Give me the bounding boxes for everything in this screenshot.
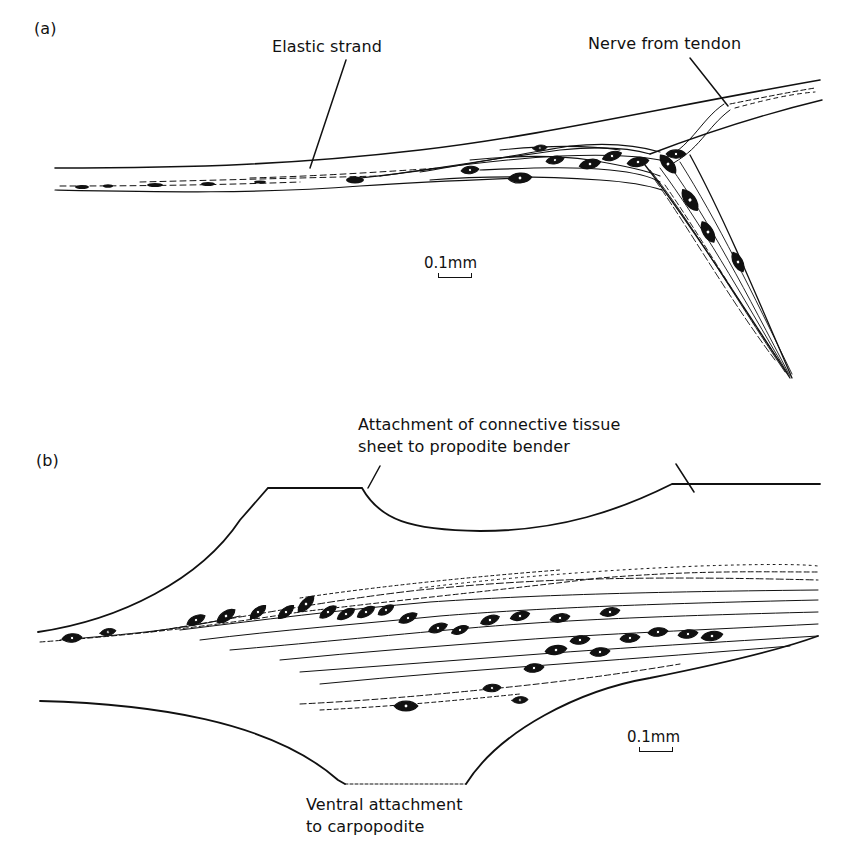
- ventral-attachment-label-line1: Ventral attachment: [306, 795, 463, 814]
- elastic-strand-label: Elastic strand: [272, 37, 382, 56]
- scale-bar-b-line: [639, 747, 673, 752]
- panel-a-label: (a): [34, 19, 57, 38]
- attachment-label-line2: sheet to propodite bender: [358, 437, 570, 456]
- scale-bar-b-label: 0.1mm: [627, 728, 680, 746]
- nerve-from-tendon-label: Nerve from tendon: [588, 34, 741, 53]
- panel-b-label: (b): [36, 451, 59, 470]
- scale-bar-a-label: 0.1mm: [424, 254, 477, 272]
- panel-b-drawing: [38, 464, 820, 784]
- attachment-label-line1: Attachment of connective tissue: [358, 415, 621, 434]
- anatomical-figure: (a) Elastic strand Nerve from tendon 0.1…: [0, 0, 849, 856]
- scale-bar-a-line: [438, 273, 472, 278]
- scale-bar-a: 0.1mm: [424, 254, 477, 278]
- scale-bar-b: 0.1mm: [627, 728, 680, 752]
- ventral-attachment-label-line2: to carpopodite: [306, 817, 424, 836]
- panel-a-drawing: [55, 58, 822, 378]
